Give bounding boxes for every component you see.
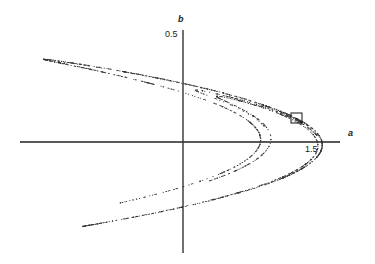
henon-attractor-chart: b 0.5 a 1.5: [0, 0, 375, 264]
plot-area: [0, 0, 375, 264]
x-axis-label: a: [348, 128, 353, 138]
y-tick-label: 0.5: [165, 29, 178, 39]
x-tick-label: 1.5: [305, 144, 318, 154]
y-axis-label: b: [178, 14, 184, 24]
